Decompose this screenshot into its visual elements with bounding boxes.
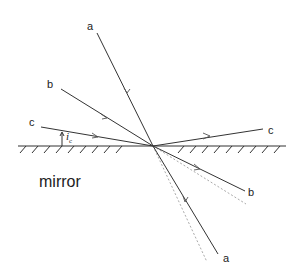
ray-a-label-top: a xyxy=(87,21,93,32)
ray-c-reflected xyxy=(153,129,263,146)
ray-diagram xyxy=(0,0,292,276)
mirror-hatching xyxy=(20,146,280,153)
arrow-icon xyxy=(124,88,130,93)
angle-subscript: c xyxy=(69,137,72,145)
arrow-icon xyxy=(183,196,188,202)
ray-c-label-right: c xyxy=(268,125,274,136)
critical-angle-label: ic xyxy=(66,131,72,145)
ray-a-label-bottom: a xyxy=(223,253,229,264)
ray-b-label-right: b xyxy=(248,187,254,198)
ray-c-label-left: c xyxy=(29,117,35,128)
mirror-label: mirror xyxy=(39,174,81,190)
ray-b-label-left: b xyxy=(47,79,53,90)
